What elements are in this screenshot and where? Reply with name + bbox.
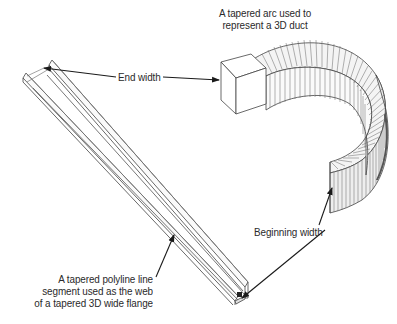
web-leader	[156, 235, 174, 277]
end-width-label: End width	[118, 71, 161, 83]
leader-lines	[27, 68, 332, 298]
duct-arc	[221, 40, 388, 213]
polyline-caption: A tapered polyline line segment used as …	[24, 273, 153, 309]
arc-caption-line1: A tapered arc used to	[207, 7, 324, 19]
diagram-canvas: A tapered arc used to represent a 3D duc…	[0, 0, 397, 324]
polyline-caption-line3: of a tapered 3D wide flange	[24, 297, 153, 309]
duct-end-box	[221, 54, 266, 114]
end-width-leader-duct	[163, 77, 219, 80]
arc-caption: A tapered arc used to represent a 3D duc…	[207, 7, 324, 31]
polyline-caption-line1: A tapered polyline line	[24, 273, 153, 285]
beginning-width-label: Beginning width	[254, 226, 323, 238]
wide-flange-beam	[23, 60, 248, 305]
beginning-width-leader-beam	[242, 230, 325, 298]
arc-caption-line2: represent a 3D duct	[207, 19, 324, 31]
polyline-caption-line2: segment used as the web	[24, 285, 153, 297]
